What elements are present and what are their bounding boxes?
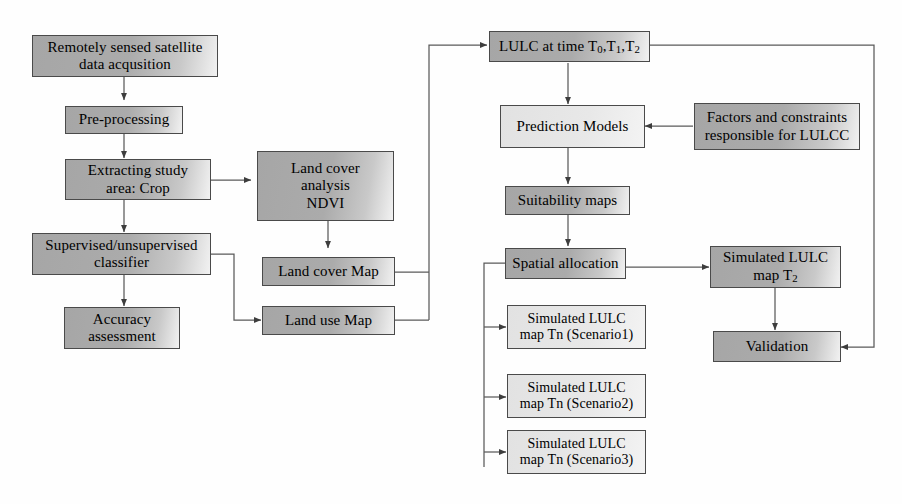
node-simulated-lulc-map-t2[interactable]: Simulated LULCmap T2 (710, 246, 841, 288)
node-classifier-label: Supervised/unsupervised classifier (41, 237, 201, 272)
node-acquisition[interactable]: Remotely sensed satellite data acqusitio… (32, 35, 218, 77)
edge-bus-to-lulc (429, 45, 487, 320)
node-land-cover-map-label: Land cover Map (274, 263, 383, 280)
edge-lulc-to-validation (650, 45, 874, 347)
node-prediction-models[interactable]: Prediction Models (500, 105, 645, 148)
node-scenario1-label: Simulated LULC map Tn (Scenario1) (516, 311, 638, 343)
node-scenario1[interactable]: Simulated LULC map Tn (Scenario1) (507, 305, 646, 349)
node-spatial-allocation-label: Spatial allocation (508, 255, 622, 272)
node-validation-label: Validation (742, 338, 813, 355)
edge-classifier-to-land-use-map (211, 254, 261, 320)
node-preprocessing[interactable]: Pre-processing (65, 106, 183, 134)
node-factors-and-constraints[interactable]: Factors and constraints responsible for … (694, 103, 860, 150)
node-land-cover-map[interactable]: Land cover Map (262, 257, 395, 286)
node-lulc-at-time-label: LULC at time T0,T1,T2 (495, 38, 644, 56)
node-simulated-lulc-map-t2-label: Simulated LULCmap T2 (719, 249, 832, 284)
node-scenario3-label: Simulated LULC map Tn (Scenario3) (516, 436, 638, 468)
node-preprocessing-label: Pre-processing (75, 111, 174, 128)
node-scenario2-label: Simulated LULC map Tn (Scenario2) (516, 380, 638, 412)
node-scenario2[interactable]: Simulated LULC map Tn (Scenario2) (507, 374, 646, 418)
node-land-cover-analysis-ndvi[interactable]: Land cover analysis NDVI (257, 151, 394, 221)
node-suitability-maps-label: Suitability maps (514, 192, 622, 209)
node-acquisition-label: Remotely sensed satellite data acqusitio… (44, 39, 207, 74)
node-lulc-at-time[interactable]: LULC at time T0,T1,T2 (489, 31, 650, 62)
node-extracting-study-area[interactable]: Extracting study area: Crop (65, 159, 211, 200)
node-land-use-map[interactable]: Land use Map (262, 306, 395, 335)
node-spatial-allocation[interactable]: Spatial allocation (505, 248, 626, 279)
node-land-cover-analysis-ndvi-label: Land cover analysis NDVI (287, 160, 364, 212)
flowchart-canvas: Remotely sensed satellite data acqusitio… (0, 0, 902, 504)
node-factors-and-constraints-label: Factors and constraints responsible for … (701, 109, 854, 144)
node-accuracy-assessment-label: Accuracy assessment (84, 311, 160, 346)
node-prediction-models-label: Prediction Models (512, 118, 632, 135)
node-land-use-map-label: Land use Map (281, 312, 376, 329)
node-extracting-study-area-label: Extracting study area: Crop (84, 162, 192, 197)
node-scenario3[interactable]: Simulated LULC map Tn (Scenario3) (507, 430, 646, 474)
node-validation[interactable]: Validation (713, 331, 841, 362)
node-classifier[interactable]: Supervised/unsupervised classifier (32, 233, 211, 275)
node-accuracy-assessment[interactable]: Accuracy assessment (64, 307, 180, 349)
node-suitability-maps[interactable]: Suitability maps (505, 186, 630, 215)
